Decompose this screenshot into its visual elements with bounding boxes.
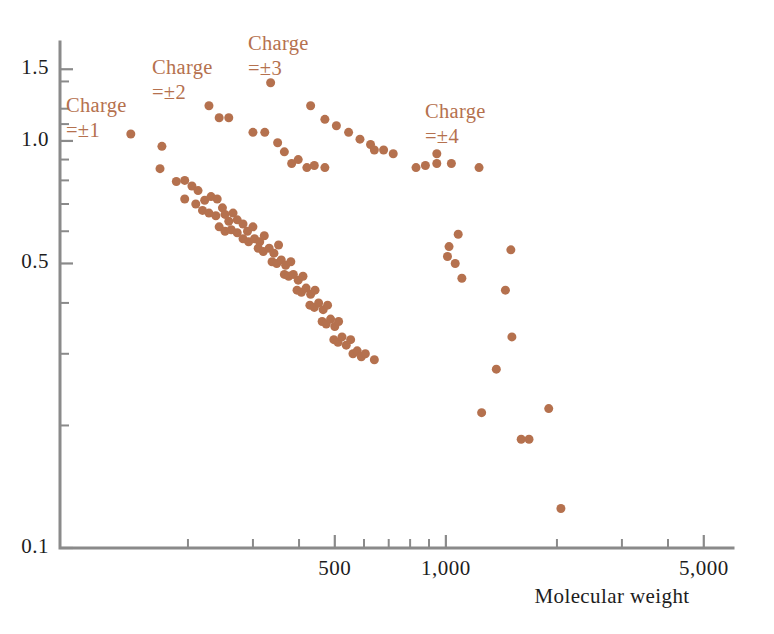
- data-point: [454, 230, 463, 239]
- data-point: [443, 252, 452, 261]
- annotation-line-2: =±2: [152, 81, 186, 103]
- series-charge-4: [412, 149, 484, 172]
- data-point: [517, 435, 526, 444]
- data-point: [475, 163, 484, 172]
- annotation-line-1: Charge: [248, 32, 309, 55]
- data-point: [274, 241, 283, 250]
- data-point: [556, 504, 565, 513]
- data-point: [432, 149, 441, 158]
- series-charge-2: [204, 101, 329, 172]
- data-point: [451, 259, 460, 268]
- axes-group: 1.51.00.50.1 5001,0005,000: [21, 42, 733, 580]
- data-point: [126, 130, 135, 139]
- y-tick-label: 0.1: [21, 534, 49, 558]
- series-sparse-tail: [443, 230, 565, 513]
- data-point: [445, 242, 454, 251]
- data-point: [457, 274, 466, 283]
- data-point: [294, 155, 303, 164]
- data-point: [370, 355, 379, 364]
- annotation-charge-4: Charge=±4: [425, 100, 486, 147]
- data-point: [332, 121, 341, 130]
- data-point: [172, 177, 181, 186]
- data-point: [320, 115, 329, 124]
- data-point: [334, 317, 343, 326]
- data-point: [156, 164, 165, 173]
- x-axis-ticks: [188, 535, 704, 548]
- data-point: [311, 286, 320, 295]
- data-point: [323, 301, 332, 310]
- data-point: [298, 272, 307, 281]
- data-point: [389, 149, 398, 158]
- x-tick-label: 500: [318, 556, 351, 580]
- data-point: [280, 147, 289, 156]
- data-point: [180, 195, 189, 204]
- y-tick-label: 1.5: [21, 55, 49, 79]
- annotation-line-1: Charge: [152, 56, 213, 79]
- y-axis-tick-labels: 1.51.00.50.1: [21, 55, 49, 558]
- annotation-line-2: =±4: [425, 125, 459, 147]
- series-charge-3: [266, 78, 398, 158]
- data-point: [507, 332, 516, 341]
- data-point: [477, 408, 486, 417]
- data-point: [412, 163, 421, 172]
- data-point: [180, 176, 189, 185]
- data-point: [447, 159, 456, 168]
- annotation-line-2: =±3: [248, 57, 282, 79]
- data-point: [421, 161, 430, 170]
- axis-lines: [60, 42, 733, 548]
- data-point: [269, 249, 278, 258]
- data-point: [215, 113, 224, 122]
- x-axis-title: Molecular weight: [534, 584, 689, 608]
- annotation-line-1: Charge: [425, 100, 486, 123]
- annotations-group: Charge=±1Charge=±2Charge=±3Charge=±4: [66, 32, 486, 147]
- y-axis-ticks: [60, 69, 73, 548]
- data-points-group: [126, 78, 565, 513]
- data-point: [525, 435, 534, 444]
- data-point: [224, 113, 233, 122]
- data-point: [213, 195, 222, 204]
- data-point: [211, 211, 220, 220]
- data-point: [544, 404, 553, 413]
- y-tick-label: 0.5: [21, 249, 49, 273]
- data-point: [344, 128, 353, 137]
- data-point: [191, 199, 200, 208]
- data-point: [204, 101, 213, 110]
- plot-svg: 1.51.00.50.1 5001,0005,000 Charge=±1Char…: [0, 0, 774, 634]
- x-axis-tick-labels: 5001,0005,000: [318, 556, 728, 580]
- data-point: [492, 365, 501, 374]
- data-point: [346, 335, 355, 344]
- annotation-charge-1: Charge=±1: [66, 94, 127, 141]
- data-point: [286, 257, 295, 266]
- data-point: [506, 245, 515, 254]
- data-point: [501, 286, 510, 295]
- annotation-line-1: Charge: [66, 94, 127, 117]
- series-charge-1: [126, 130, 166, 151]
- annotation-charge-3: Charge=±3: [248, 32, 309, 79]
- data-point: [432, 159, 441, 168]
- data-point: [320, 163, 329, 172]
- data-point: [379, 146, 388, 155]
- annotation-charge-2: Charge=±2: [152, 56, 213, 103]
- data-point: [260, 231, 269, 240]
- x-tick-label: 5,000: [679, 556, 729, 580]
- data-point: [266, 78, 275, 87]
- data-point: [273, 138, 282, 147]
- data-point: [248, 222, 257, 231]
- data-point: [361, 349, 370, 358]
- data-point: [310, 161, 319, 170]
- data-point: [194, 186, 203, 195]
- data-point: [338, 332, 347, 341]
- series-main-band-upper: [156, 164, 379, 364]
- data-point: [157, 142, 166, 151]
- data-point: [355, 135, 364, 144]
- annotation-line-2: =±1: [66, 119, 100, 141]
- data-point: [224, 217, 233, 226]
- data-point: [260, 128, 269, 137]
- data-point: [248, 128, 257, 137]
- data-point: [306, 101, 315, 110]
- data-point: [370, 146, 379, 155]
- scatter-plot-figure: 1.51.00.50.1 5001,0005,000 Charge=±1Char…: [0, 0, 774, 634]
- x-tick-label: 1,000: [421, 556, 471, 580]
- y-tick-label: 1.0: [21, 127, 49, 151]
